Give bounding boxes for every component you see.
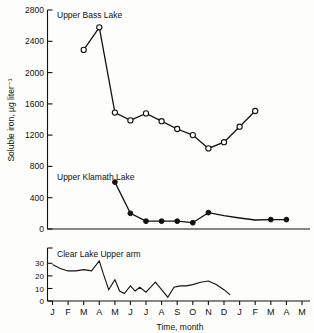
klamath-point-mar2 [268,217,273,222]
upper-bass-point-aug [159,119,164,124]
label-clear-lake: Clear Lake Upper arm [57,249,141,259]
upper-bass-point-jan2 [237,124,242,129]
xtick-label-1: F [65,307,71,317]
upper-bass-point-mar [81,47,86,52]
upper-klamath-line [115,182,287,223]
series-clear-lake-upper-arm [53,261,231,297]
upper-bass-point-nov [206,146,211,151]
ytick-label-0: 0 [39,224,44,234]
lower-y-axis: 30 20 10 0 [35,248,52,306]
xtick-label-5: J [128,307,133,317]
x-axis-title: Time, month [157,322,204,332]
klamath-point-oct [190,220,195,225]
xtick-label-16: M [298,307,306,317]
xtick-label-2: M [80,307,88,317]
ytick-label-800: 800 [30,161,44,171]
xtick-label-4: M [111,307,119,317]
xtick-label-13: F [252,307,258,317]
klamath-point-aug [159,219,164,224]
xtick-label-7: A [159,307,165,317]
xtick-label-10: N [205,307,212,317]
xtick-label-15: A [283,307,289,317]
ytick-label-2400: 2400 [25,36,44,46]
klamath-point-jul [144,219,149,224]
figure-container: 2800 2400 2000 1600 1200 800 400 0 [0,0,314,333]
lower-ytick-label-10: 10 [35,285,44,294]
label-upper-bass-lake: Upper Bass Lake [57,10,122,20]
label-upper-klamath-lake: Upper Klamath Lake [57,172,135,182]
iron-timeseries-chart: 2800 2400 2000 1600 1200 800 400 0 [0,0,314,333]
ytick-label-2800: 2800 [25,5,44,15]
y-axis-title: Soluble iron, µg liter⁻¹ [6,78,16,161]
xtick-label-6: J [144,307,149,317]
klamath-point-apr2 [284,217,289,222]
clear-lake-line [53,261,231,297]
upper-bass-point-sep [175,126,180,131]
upper-bass-point-may [112,110,117,115]
xtick-label-8: S [174,307,180,317]
ytick-label-1200: 1200 [25,130,44,140]
xtick-label-14: M [267,307,275,317]
upper-bass-point-jun [128,118,133,123]
xtick-label-0: J [50,307,55,317]
klamath-point-sep [175,219,180,224]
ytick-label-400: 400 [30,193,44,203]
upper-bass-point-apr [97,25,102,30]
upper-bass-point-dec [221,140,226,145]
lower-ytick-label-0: 0 [40,297,45,306]
upper-bass-point-jul [143,111,148,116]
xtick-label-3: A [96,307,102,317]
xtick-label-9: O [189,307,196,317]
lower-ytick-label-30: 30 [35,259,44,268]
xtick-label-11: D [221,307,228,317]
xtick-label-12: J [237,307,242,317]
series-upper-bass-lake [81,25,258,151]
upper-bass-point-feb2 [253,108,258,113]
ytick-label-2000: 2000 [25,68,44,78]
upper-bass-point-oct [190,133,195,138]
lower-ytick-label-20: 20 [35,272,44,281]
klamath-point-nov [206,210,211,215]
series-upper-klamath-lake [113,180,289,225]
upper-bass-lake-line [84,27,256,148]
ytick-label-1600: 1600 [25,99,44,109]
x-axis: J F M A M J J A S O N D J F M A M [48,301,311,317]
klamath-point-jun [128,211,133,216]
main-y-axis: 2800 2400 2000 1600 1200 800 400 0 [25,5,52,234]
